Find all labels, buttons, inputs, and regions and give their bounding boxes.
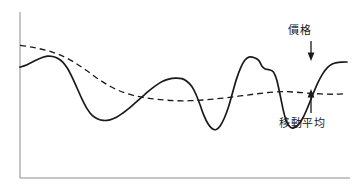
moving-average-annotation-label: 移動平均 [279,117,325,130]
price-annotation-label: 價格 [288,24,311,37]
moving-average-line [20,45,347,101]
chart-figure: 價格 移動平均 [0,0,356,192]
price-annotation-arrow [308,41,315,61]
